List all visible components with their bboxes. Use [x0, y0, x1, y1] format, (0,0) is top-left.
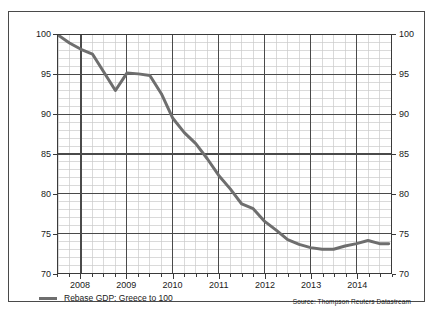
- x-tick-mark: [149, 274, 150, 277]
- y-tick-mark: [392, 114, 396, 115]
- y-tick-label-left-75: 75: [21, 230, 51, 239]
- y-tick-label-right-90: 90: [399, 110, 429, 119]
- x-tick-mark: [184, 274, 185, 277]
- x-tick-mark: [334, 274, 335, 277]
- x-tick-label-2010: 2010: [153, 281, 193, 290]
- x-tick-mark: [265, 274, 266, 279]
- y-tick-mark: [392, 194, 396, 195]
- x-tick-mark: [103, 274, 104, 277]
- legend: Rebase GDP: Greece to 100: [39, 293, 173, 303]
- series-layer: [58, 35, 391, 273]
- y-tick-label-right-85: 85: [399, 150, 429, 159]
- y-tick-mark: [53, 234, 57, 235]
- x-tick-mark: [253, 274, 254, 277]
- y-tick-mark: [53, 34, 57, 35]
- y-tick-label-right-75: 75: [399, 230, 429, 239]
- x-tick-mark: [126, 274, 127, 279]
- x-tick-mark: [311, 274, 312, 279]
- y-tick-mark: [392, 234, 396, 235]
- x-tick-mark: [369, 274, 370, 277]
- y-tick-label-left-90: 90: [21, 110, 51, 119]
- x-tick-mark: [300, 274, 301, 277]
- y-tick-mark: [53, 154, 57, 155]
- y-tick-label-left-85: 85: [21, 150, 51, 159]
- x-tick-label-2014: 2014: [337, 281, 377, 290]
- y-tick-label-right-80: 80: [399, 190, 429, 199]
- x-tick-mark: [57, 274, 58, 277]
- x-tick-mark: [276, 274, 277, 277]
- legend-label-series-1: Rebase GDP: Greece to 100: [64, 293, 173, 303]
- y-tick-mark: [392, 74, 396, 75]
- y-tick-label-left-100: 100: [21, 30, 51, 39]
- y-tick-label-right-70: 70: [399, 270, 429, 279]
- x-tick-label-2013: 2013: [291, 281, 331, 290]
- y-tick-label-right-100: 100: [399, 30, 429, 39]
- x-tick-mark: [288, 274, 289, 277]
- y-tick-mark: [392, 154, 396, 155]
- plot-area: [57, 34, 392, 274]
- x-tick-label-2009: 2009: [106, 281, 146, 290]
- y-tick-label-left-80: 80: [21, 190, 51, 199]
- y-tick-mark: [53, 114, 57, 115]
- y-tick-label-right-95: 95: [399, 70, 429, 79]
- x-tick-label-2012: 2012: [245, 281, 285, 290]
- y-tick-mark: [392, 34, 396, 35]
- chart-figure: 707580859095100 707580859095100 20082009…: [0, 0, 434, 316]
- x-tick-mark: [161, 274, 162, 277]
- x-tick-mark: [207, 274, 208, 277]
- x-tick-label-2008: 2008: [60, 281, 100, 290]
- x-tick-label-2011: 2011: [199, 281, 239, 290]
- x-tick-mark: [392, 274, 393, 277]
- y-tick-mark: [53, 194, 57, 195]
- x-tick-mark: [80, 274, 81, 279]
- x-tick-mark: [357, 274, 358, 279]
- x-tick-mark: [346, 274, 347, 277]
- x-tick-mark: [196, 274, 197, 277]
- x-tick-mark: [115, 274, 116, 277]
- x-tick-mark: [230, 274, 231, 277]
- x-tick-mark: [69, 274, 70, 277]
- y-tick-mark: [53, 74, 57, 75]
- y-tick-label-left-95: 95: [21, 70, 51, 79]
- x-tick-mark: [380, 274, 381, 277]
- x-tick-mark: [219, 274, 220, 279]
- source-note: Source: Thompson Reuters Datastream: [293, 297, 411, 306]
- y-tick-label-left-70: 70: [21, 270, 51, 279]
- legend-swatch-series-1: [39, 297, 57, 300]
- x-tick-mark: [323, 274, 324, 277]
- x-tick-mark: [242, 274, 243, 277]
- x-tick-mark: [92, 274, 93, 277]
- x-tick-mark: [173, 274, 174, 279]
- x-tick-mark: [138, 274, 139, 277]
- chart-frame: 707580859095100 707580859095100 20082009…: [8, 11, 425, 302]
